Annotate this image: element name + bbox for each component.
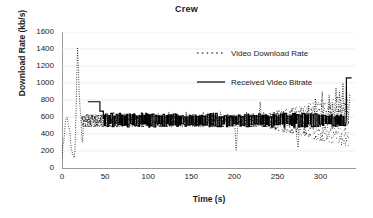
y-tick-label: 1400	[36, 45, 54, 53]
legend-item-video-download-rate: Video Download Rate	[196, 44, 312, 62]
x-axis-tick-labels: 050100150200250300	[62, 172, 356, 184]
y-tick-label: 800	[41, 96, 54, 104]
x-tick-label: 50	[101, 172, 110, 181]
x-tick-label: 150	[185, 172, 198, 181]
chart-title: Crew	[0, 4, 373, 14]
x-tick-label: 0	[60, 172, 64, 181]
y-tick-label: 1000	[36, 79, 54, 87]
y-tick-label: 200	[41, 147, 54, 155]
y-axis-tick-labels: 02004006008001000120014001600	[0, 32, 58, 168]
solid-line-icon	[196, 77, 226, 87]
x-axis-line	[62, 168, 356, 169]
dotted-line-icon	[196, 48, 226, 58]
y-tick-label: 1600	[36, 28, 54, 36]
legend-label-video-download-rate: Video Download Rate	[231, 49, 308, 58]
x-tick-label: 300	[314, 172, 327, 181]
legend-label-received-video-bitrate: Received Video Bitrate	[231, 78, 312, 87]
chart-legend: Video Download Rate Received Video Bitra…	[196, 44, 312, 91]
x-tick-label: 100	[141, 172, 154, 181]
y-tick-label: 400	[41, 130, 54, 138]
x-axis-title: Time (s)	[62, 194, 356, 204]
legend-item-received-video-bitrate: Received Video Bitrate	[196, 73, 312, 91]
chart-figure: Crew Download Rate (kb/s) 02004006008001…	[0, 0, 373, 218]
y-tick-label: 600	[41, 113, 54, 121]
x-tick-label: 250	[271, 172, 284, 181]
y-tick-label: 0	[50, 164, 54, 172]
y-tick-label: 1200	[36, 62, 54, 70]
x-tick-label: 200	[228, 172, 241, 181]
